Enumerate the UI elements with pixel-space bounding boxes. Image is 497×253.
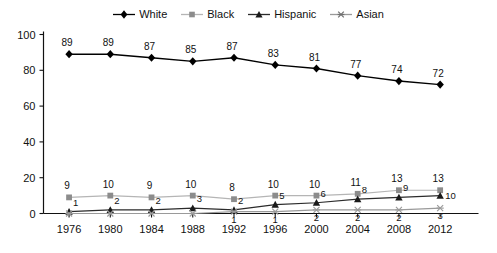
y-tick-label: 60 (23, 100, 35, 112)
square-marker (190, 193, 196, 199)
x-tick-label: 2000 (304, 223, 328, 235)
data-label-hispanic: 8 (362, 184, 367, 195)
data-label-hispanic: 6 (320, 188, 325, 199)
data-label-white: 72 (433, 68, 445, 79)
data-label-asian: 2 (396, 212, 401, 223)
legend-item-hispanic[interactable]: Hispanic (248, 9, 316, 20)
data-label-white: 89 (103, 37, 115, 48)
data-label-hispanic: 9 (403, 182, 408, 193)
x-tick-label: 1988 (181, 223, 205, 235)
x-tick-label: 1976 (57, 223, 81, 235)
diamond-marker (230, 54, 237, 62)
data-label-black: 8 (229, 182, 235, 193)
y-tick-label: 20 (23, 172, 35, 184)
data-label-black: 13 (391, 173, 403, 184)
series-line-hispanic (69, 196, 440, 212)
diamond-marker (313, 64, 320, 72)
y-tick-label: 0 (29, 208, 35, 220)
data-label-white: 87 (144, 41, 156, 52)
square-marker (396, 187, 402, 193)
square-marker-icon (181, 9, 203, 20)
diamond-marker-icon (113, 9, 135, 20)
y-tick-label: 80 (23, 64, 35, 76)
legend-label-black: Black (207, 9, 234, 20)
x-tick-label: 2012 (428, 223, 452, 235)
data-label-black: 13 (433, 173, 445, 184)
data-label-white: 89 (62, 37, 74, 48)
data-label-asian: 1 (231, 214, 236, 225)
data-label-white: 87 (226, 41, 238, 52)
square-marker (272, 193, 278, 199)
square-marker (149, 194, 155, 200)
data-label-white: 81 (309, 52, 321, 63)
data-label-white: 77 (350, 59, 362, 70)
data-label-asian: 1 (273, 214, 278, 225)
chart-legend: White Black Hispanic (0, 9, 497, 20)
x-tick-label: 2004 (345, 223, 369, 235)
data-label-hispanic: 2 (238, 195, 243, 206)
triangle-marker-icon (248, 9, 270, 20)
legend-item-black[interactable]: Black (181, 9, 234, 20)
y-tick-label: 40 (23, 136, 35, 148)
data-label-black: 9 (147, 180, 153, 191)
data-label-hispanic: 2 (114, 195, 119, 206)
data-label-asian: 2 (314, 212, 319, 223)
diamond-marker (272, 61, 279, 69)
legend-label-white: White (139, 9, 167, 20)
data-label-hispanic: 5 (279, 190, 284, 201)
data-label-white: 85 (185, 44, 197, 55)
data-label-hispanic: 1 (73, 197, 78, 208)
series-white: 89898785878381777472 (62, 37, 445, 89)
diamond-marker (395, 77, 402, 85)
data-label-black: 10 (309, 179, 321, 190)
diamond-marker (107, 50, 114, 58)
diamond-marker (148, 54, 155, 62)
data-label-hispanic: 3 (197, 193, 202, 204)
square-marker (231, 196, 237, 202)
data-label-black: 10 (103, 179, 115, 190)
diamond-marker (436, 81, 443, 89)
diamond-marker (65, 50, 72, 58)
data-label-black: 10 (268, 179, 280, 190)
x-tick-label: 2008 (387, 223, 411, 235)
data-label-asian: 2 (355, 212, 360, 223)
diamond-marker (189, 57, 196, 65)
data-label-asian: 3 (438, 210, 443, 221)
data-label-hispanic: 10 (445, 190, 456, 201)
x-tick-label: 1980 (98, 223, 122, 235)
square-marker (107, 193, 113, 199)
data-label-black: 10 (185, 179, 197, 190)
data-label-hispanic: 2 (156, 195, 161, 206)
diamond-marker (354, 72, 361, 80)
chart-plot-area: 1008060402001976198019841988199219962000… (0, 0, 497, 253)
legend-item-white[interactable]: White (113, 9, 167, 20)
y-tick-label: 100 (17, 29, 35, 41)
series-line-asian (69, 208, 440, 213)
series-line-white (69, 54, 440, 84)
data-label-black: 11 (350, 177, 361, 188)
legend-label-asian: Asian (356, 9, 384, 20)
asterisk-marker-icon (330, 9, 352, 20)
data-label-black: 9 (64, 180, 70, 191)
legend-label-hispanic: Hispanic (274, 9, 316, 20)
square-marker (66, 194, 72, 200)
square-marker (314, 193, 320, 199)
line-chart: White Black Hispanic (0, 0, 497, 253)
data-label-white: 83 (268, 48, 280, 59)
x-tick-label: 1984 (139, 223, 163, 235)
legend-item-asian[interactable]: Asian (330, 9, 384, 20)
data-label-white: 74 (391, 64, 403, 75)
